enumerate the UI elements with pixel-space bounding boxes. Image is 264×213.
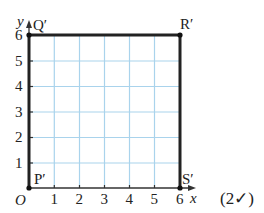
point-r	[177, 32, 182, 37]
coordinate-graph: 6 5 4 3 2 1 1 2 3 4 5 6 y x O Q′ R′ P′ S…	[0, 0, 264, 213]
marks-annotation: (2✓)	[220, 189, 254, 208]
y-tick-label: 2	[15, 129, 23, 145]
y-tick-label: 3	[15, 104, 23, 120]
grid-lines	[29, 35, 180, 188]
origin-label: O	[15, 192, 26, 208]
x-tick-label: 3	[101, 191, 109, 207]
y-axis-arrow-icon	[26, 20, 32, 28]
x-axis-label: x	[189, 190, 197, 206]
point-q	[26, 32, 31, 37]
axes	[29, 26, 190, 188]
y-tick-label: 1	[15, 155, 23, 171]
x-tick-label: 1	[51, 191, 59, 207]
point-p-label: P′	[34, 171, 46, 187]
x-tick-label: 2	[76, 191, 84, 207]
y-axis-label: y	[15, 13, 24, 29]
y-tick-label: 6	[15, 27, 23, 43]
y-tick-label: 5	[15, 53, 23, 69]
point-p	[26, 185, 31, 190]
y-tick-label: 4	[15, 78, 23, 94]
point-r-label: R′	[180, 16, 193, 32]
x-tick-label: 4	[126, 191, 134, 207]
x-tick-label: 6	[176, 191, 184, 207]
point-s-label: S′	[182, 171, 194, 187]
tick-marks	[29, 61, 155, 188]
x-tick-label: 5	[151, 191, 159, 207]
point-q-label: Q′	[33, 17, 47, 33]
